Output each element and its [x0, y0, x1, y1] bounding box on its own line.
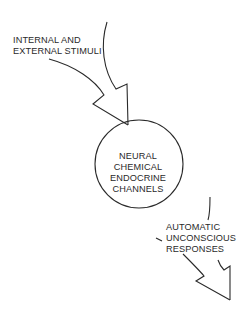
- stimuli-label-line-1: INTERNAL AND: [13, 35, 102, 46]
- responses-label: AUTOMATIC UNCONSCIOUS RESPONSES: [166, 222, 236, 255]
- responses-label-line-1: AUTOMATIC: [166, 222, 236, 233]
- channels-label-line-1: NEURAL: [100, 151, 176, 162]
- channels-label-line-3: ENDOCRINE: [100, 173, 176, 184]
- channels-label: NEURAL CHEMICAL ENDOCRINE CHANNELS: [100, 151, 176, 195]
- channels-label-line-2: CHEMICAL: [100, 162, 176, 173]
- channels-label-line-4: CHANNELS: [100, 184, 176, 195]
- responses-label-line-3: RESPONSES: [166, 244, 236, 255]
- stimuli-label-line-2: EXTERNAL STIMULI: [13, 46, 102, 57]
- responses-label-line-2: UNCONSCIOUS: [166, 233, 236, 244]
- diagram-canvas: INTERNAL AND EXTERNAL STIMULI NEURAL CHE…: [0, 0, 247, 311]
- stimuli-label: INTERNAL AND EXTERNAL STIMULI: [13, 35, 102, 57]
